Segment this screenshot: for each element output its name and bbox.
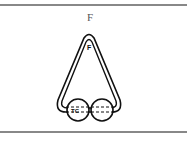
right-circle — [91, 99, 113, 121]
inner-label: F — [87, 44, 92, 51]
circle-label: TC — [71, 108, 80, 114]
bottom-rule — [0, 131, 187, 133]
figure-panel: F F TC — [0, 0, 187, 141]
loop-diagram: F TC — [0, 0, 187, 141]
